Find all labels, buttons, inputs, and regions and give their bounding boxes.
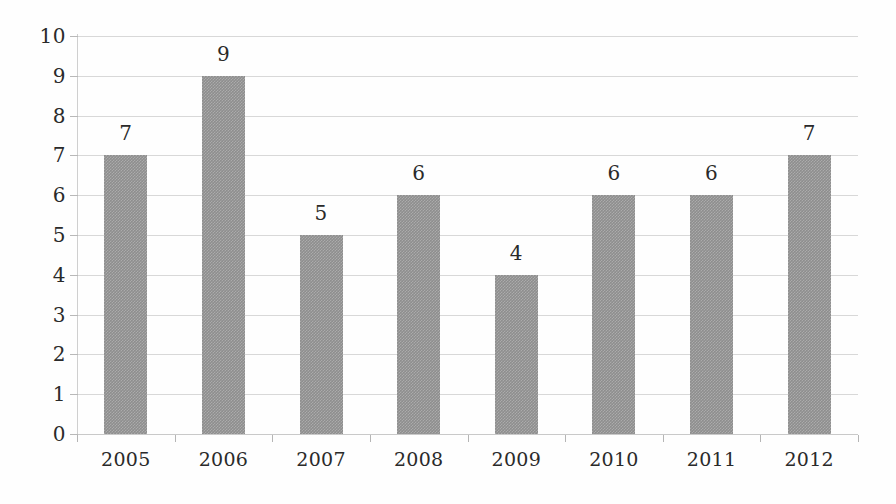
- y-axis-tick: [70, 315, 78, 316]
- y-axis-tick: [70, 354, 78, 355]
- gridline: [77, 155, 858, 156]
- x-axis-tick-label: 2007: [272, 448, 370, 471]
- y-axis-tick: [70, 76, 78, 77]
- plot-area: [77, 36, 858, 434]
- gridline: [77, 275, 858, 276]
- x-axis-tick: [272, 435, 273, 442]
- bar: [202, 76, 245, 434]
- bar: [592, 195, 635, 434]
- x-axis-tick-label: 2011: [663, 448, 761, 471]
- x-axis-tick: [663, 435, 664, 442]
- y-axis-tick-label: 5: [4, 225, 66, 245]
- y-axis-tick-label: 1: [4, 384, 66, 404]
- x-axis-tick: [858, 435, 859, 442]
- y-axis-tick: [70, 275, 78, 276]
- bar-value-label: 5: [286, 203, 356, 223]
- y-axis-tick-label: 6: [4, 185, 66, 205]
- y-axis-tick-label: 8: [4, 106, 66, 126]
- y-axis-tick: [70, 195, 78, 196]
- bar-value-label: 7: [91, 123, 161, 143]
- y-axis-labels: 012345678910: [0, 0, 66, 504]
- y-axis-tick-label: 4: [4, 265, 66, 285]
- y-axis-tick-label: 9: [4, 66, 66, 86]
- x-axis-tick: [565, 435, 566, 442]
- y-axis-tick: [70, 155, 78, 156]
- x-axis-tick-label: 2009: [467, 448, 565, 471]
- x-axis-tick: [175, 435, 176, 442]
- gridline: [77, 394, 858, 395]
- bar-value-label: 6: [384, 163, 454, 183]
- gridline: [77, 315, 858, 316]
- x-axis-tick-label: 2010: [565, 448, 663, 471]
- bar-value-label: 7: [774, 123, 844, 143]
- x-axis-tick: [760, 435, 761, 442]
- bar: [495, 275, 538, 434]
- x-axis-tick-label: 2012: [760, 448, 858, 471]
- bar-chart: 012345678910 200520062007200820092010201…: [0, 0, 896, 504]
- y-axis-tick-label: 10: [4, 26, 66, 46]
- x-axis-tick: [370, 435, 371, 442]
- x-axis-tick: [77, 435, 78, 442]
- gridline: [77, 354, 858, 355]
- y-axis-tick: [70, 36, 78, 37]
- bar: [788, 155, 831, 434]
- y-axis-tick-label: 2: [4, 344, 66, 364]
- bar-value-label: 4: [481, 243, 551, 263]
- gridline: [77, 36, 858, 37]
- y-axis-tick-label: 3: [4, 305, 66, 325]
- gridline: [77, 195, 858, 196]
- y-axis-tick-label: 0: [4, 424, 66, 444]
- gridline: [77, 235, 858, 236]
- x-axis-tick-label: 2005: [77, 448, 175, 471]
- y-axis-tick: [70, 394, 78, 395]
- gridline: [77, 76, 858, 77]
- y-axis-tick: [70, 116, 78, 117]
- x-axis-tick-label: 2006: [174, 448, 272, 471]
- y-axis-tick-label: 7: [4, 145, 66, 165]
- bar-value-label: 9: [188, 44, 258, 64]
- bar: [300, 235, 343, 434]
- x-axis-tick-label: 2008: [370, 448, 468, 471]
- x-axis-tick: [468, 435, 469, 442]
- bar: [104, 155, 147, 434]
- bar-value-label: 6: [677, 163, 747, 183]
- bar: [690, 195, 733, 434]
- y-axis-tick: [70, 235, 78, 236]
- bar: [397, 195, 440, 434]
- gridline: [77, 116, 858, 117]
- bar-value-label: 6: [579, 163, 649, 183]
